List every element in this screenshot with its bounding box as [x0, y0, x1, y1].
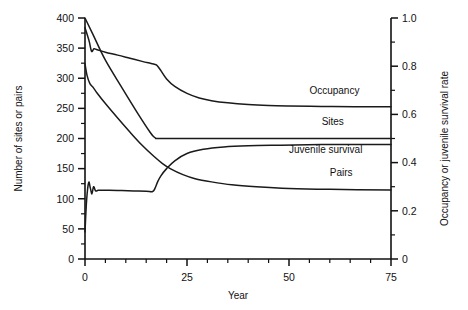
series-label-occupancy: Occupancy [309, 85, 359, 96]
x-axis-tick-label: 25 [181, 271, 193, 283]
y2-axis-tick-label: 0.8 [402, 60, 417, 72]
y2-axis-tick-label: 0.4 [402, 156, 417, 168]
x-axis-tick-label: 75 [385, 271, 397, 283]
x-axis-title: Year [228, 290, 249, 301]
y-axis-tick-label: 300 [56, 72, 74, 84]
y2-axis-tick-label: 0.6 [402, 108, 417, 120]
series-label-pairs: Pairs [330, 167, 353, 178]
y-axis-tick-label: 350 [56, 42, 74, 54]
y2-axis-tick-label: 0.2 [402, 205, 417, 217]
series-label-juvenile-survival: Juvenile survival [289, 144, 362, 155]
y-axis-tick-label: 0 [68, 253, 74, 265]
x-axis-tick-label: 0 [82, 271, 88, 283]
y-axis-tick-label: 250 [56, 102, 74, 114]
series-labels: OccupancySitesJuvenile survivalPairs [289, 85, 362, 178]
y-axis-tick-label: 100 [56, 193, 74, 205]
y-axis-tick-label: 200 [56, 132, 74, 144]
axis-titles: YearNumber of sites or pairsOccupancy or… [13, 71, 450, 301]
axes: 05010015020025030035040000.20.40.60.81.0… [56, 12, 416, 283]
series-line-pairs [85, 144, 391, 231]
y-axis-tick-label: 150 [56, 162, 74, 174]
y2-axis-title: Occupancy or juvenile survival rate [439, 71, 450, 227]
y-axis-tick-label: 400 [56, 12, 74, 24]
y-axis-title: Number of sites or pairs [13, 85, 24, 191]
y2-axis-tick-label: 0 [402, 253, 408, 265]
data-curves [85, 18, 391, 232]
chart-figure: 05010015020025030035040000.20.40.60.81.0… [0, 0, 468, 310]
x-axis-tick-label: 50 [283, 271, 295, 283]
y-axis-tick-label: 50 [62, 223, 74, 235]
series-line-sites [85, 18, 391, 139]
series-label-sites: Sites [322, 116, 344, 127]
y2-axis-tick-label: 1.0 [402, 12, 417, 24]
